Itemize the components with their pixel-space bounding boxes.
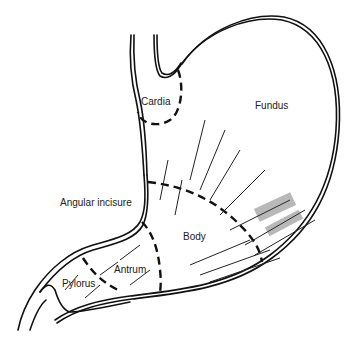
label-pylorus: Pylorus	[62, 279, 95, 289]
label-antrum: Antrum	[114, 265, 146, 275]
label-cardia: Cardia	[141, 97, 170, 107]
label-fundus: Fundus	[255, 101, 288, 111]
stomach-diagram: Cardia Fundus Angular incisure Body Antr…	[0, 0, 348, 342]
label-body: Body	[183, 232, 206, 242]
stomach-illustration	[0, 0, 348, 342]
label-angular-incisure: Angular incisure	[60, 198, 132, 208]
